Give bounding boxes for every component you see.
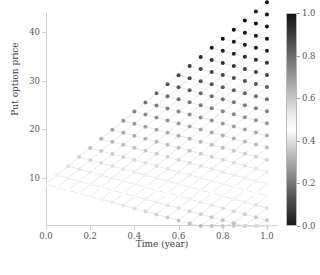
lattice-nodes <box>44 0 269 228</box>
lattice-node <box>188 64 192 68</box>
lattice-edge <box>223 54 234 63</box>
lattice-node <box>199 115 203 119</box>
lattice-node <box>243 67 247 71</box>
lattice-edge <box>256 14 267 23</box>
lattice-edge <box>234 33 245 42</box>
lattice-node <box>188 185 192 189</box>
lattice-edge <box>156 157 167 166</box>
lattice-edge <box>201 108 212 117</box>
lattice-edge <box>190 81 201 90</box>
lattice-edge <box>245 145 256 154</box>
lattice-node <box>232 221 236 225</box>
lattice-edge <box>168 99 179 108</box>
lattice-node <box>265 170 269 174</box>
lattice-node <box>132 158 136 162</box>
lattice-node <box>199 200 203 204</box>
lattice-node <box>243 43 247 47</box>
lattice-node <box>221 97 225 101</box>
lattice-edge <box>168 75 179 84</box>
lattice-edge <box>168 124 179 133</box>
lattice-edge <box>201 205 212 214</box>
lattice-node <box>132 146 136 150</box>
lattice-node <box>254 70 258 74</box>
lattice-node <box>132 194 136 198</box>
lattice-edge <box>212 123 223 132</box>
lattice-node <box>199 55 203 59</box>
lattice-node <box>243 152 247 156</box>
lattice-edge <box>245 132 256 141</box>
lattice-node <box>177 122 181 126</box>
lattice-node <box>254 94 258 98</box>
lattice-node <box>154 188 158 192</box>
lattice-edge <box>256 172 267 181</box>
x-tick <box>46 226 47 230</box>
colorbar-gradient <box>286 13 297 226</box>
lattice-edge <box>179 211 190 220</box>
lattice-edge <box>201 72 212 81</box>
lattice-edge <box>123 124 134 133</box>
lattice-node <box>154 164 158 168</box>
lattice-edge <box>168 160 179 169</box>
figure: 10203040 0.00.20.40.60.81.0 Time (year) … <box>0 0 320 275</box>
lattice-node <box>221 37 225 41</box>
lattice-edge <box>223 163 234 172</box>
lattice-edge <box>201 145 212 154</box>
lattice-node <box>221 73 225 77</box>
x-axis-label: Time (year) <box>46 239 278 249</box>
lattice-edge <box>256 123 267 132</box>
lattice-edge <box>201 217 212 226</box>
lattice-node <box>254 143 258 147</box>
lattice-edge <box>68 157 79 166</box>
lattice-node <box>177 134 181 138</box>
lattice-edge <box>256 87 267 96</box>
lattice-node <box>199 224 203 228</box>
lattice-edge <box>68 169 79 178</box>
lattice-node <box>188 197 192 201</box>
lattice-node <box>177 158 181 162</box>
lattice-edge <box>134 151 145 160</box>
lattice-node <box>66 176 70 180</box>
lattice-edge <box>234 81 245 90</box>
lattice-node <box>254 9 258 13</box>
lattice-node <box>143 149 147 153</box>
lattice-node <box>221 158 225 162</box>
lattice-node <box>110 152 114 156</box>
y-tick-label: 10 <box>29 173 40 182</box>
lattice-node <box>265 73 269 77</box>
lattice-node <box>254 167 258 171</box>
lattice-edge <box>134 115 145 124</box>
lattice-node <box>221 146 225 150</box>
lattice-node <box>221 170 225 174</box>
lattice-edge <box>234 21 245 30</box>
lattice-edge <box>168 196 179 205</box>
lattice-node <box>210 191 214 195</box>
y-tick <box>42 32 46 33</box>
lattice-node <box>243 224 247 228</box>
lattice-node <box>88 158 92 162</box>
lattice-node <box>243 31 247 35</box>
lattice-edge <box>156 181 167 190</box>
lattice-edge <box>112 145 123 154</box>
lattice-edge <box>190 105 201 114</box>
lattice-edge <box>190 166 201 175</box>
lattice-edge <box>57 166 68 175</box>
lattice-node <box>177 146 181 150</box>
lattice-edge <box>156 84 167 93</box>
lattice-node <box>232 173 236 177</box>
lattice-edge <box>112 181 123 190</box>
lattice-node <box>210 224 214 228</box>
lattice-edge <box>101 166 112 175</box>
lattice-edge <box>145 105 156 114</box>
lattice-node <box>166 203 170 207</box>
lattice-edge <box>201 96 212 105</box>
lattice-edge <box>223 151 234 160</box>
colorbar-tick-label: 0.0 <box>302 222 316 231</box>
lattice-node <box>232 52 236 56</box>
lattice-edge <box>201 193 212 202</box>
lattice-edge <box>168 148 179 157</box>
lattice-node <box>254 203 258 207</box>
lattice-node <box>221 85 225 89</box>
lattice-node <box>132 122 136 126</box>
lattice-node <box>265 85 269 89</box>
lattice-edge <box>179 175 190 184</box>
